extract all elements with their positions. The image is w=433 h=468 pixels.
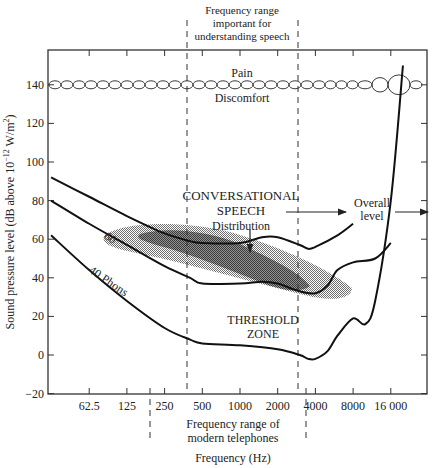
hearing-range-chart: −20020406080100120140 62.512525050010002… xyxy=(0,0,433,468)
discomfort-label: Discomfort xyxy=(215,91,270,105)
y-tick-label: 60 xyxy=(32,232,44,246)
overall-label: Overall xyxy=(354,196,391,210)
y-tick-label: 100 xyxy=(26,155,44,169)
speech-range-label-3: understanding speech xyxy=(195,30,290,42)
pain-label: Pain xyxy=(231,66,252,80)
conversational-label: CONVERSATIONAL xyxy=(183,188,300,203)
x-tick-label: 250 xyxy=(156,399,174,413)
x-tick-label: 4000 xyxy=(303,399,327,413)
x-tick-label: 8000 xyxy=(341,399,365,413)
x-tick-label: 125 xyxy=(118,399,136,413)
phon-40-label: 40 Phons xyxy=(86,263,131,300)
y-tick-label: 140 xyxy=(26,78,44,92)
x-tick-label: 500 xyxy=(193,399,211,413)
x-tick-label: 16 000 xyxy=(374,399,407,413)
telephone-range-label-1: Frequency range of xyxy=(186,417,279,431)
threshold-label: THRESHOLD xyxy=(227,313,299,327)
y-tick-label: 120 xyxy=(26,116,44,130)
x-tick-label: 62.5 xyxy=(79,399,100,413)
y-axis-title: Sound pressure level (dB above 10−12 W/m… xyxy=(2,115,17,330)
x-axis-title: Frequency (Hz) xyxy=(195,451,271,465)
speech-range-label-1: Frequency range xyxy=(205,4,279,16)
distribution-label: Distribution xyxy=(212,219,270,233)
speech-range-label-2: important for xyxy=(213,17,272,29)
y-tick-label: 0 xyxy=(38,348,44,362)
y-tick-label: 80 xyxy=(32,194,44,208)
level-label: level xyxy=(360,209,384,223)
telephone-range-label-2: modern telephones xyxy=(188,431,279,445)
y-tick-label: −20 xyxy=(25,387,44,401)
x-tick-label: 2000 xyxy=(266,399,290,413)
x-tick-label: 1000 xyxy=(228,399,252,413)
y-tick-label: 20 xyxy=(32,309,44,323)
zone-label: ZONE xyxy=(247,327,279,341)
speech-label: SPEECH xyxy=(217,203,265,218)
y-tick-label: 40 xyxy=(32,271,44,285)
